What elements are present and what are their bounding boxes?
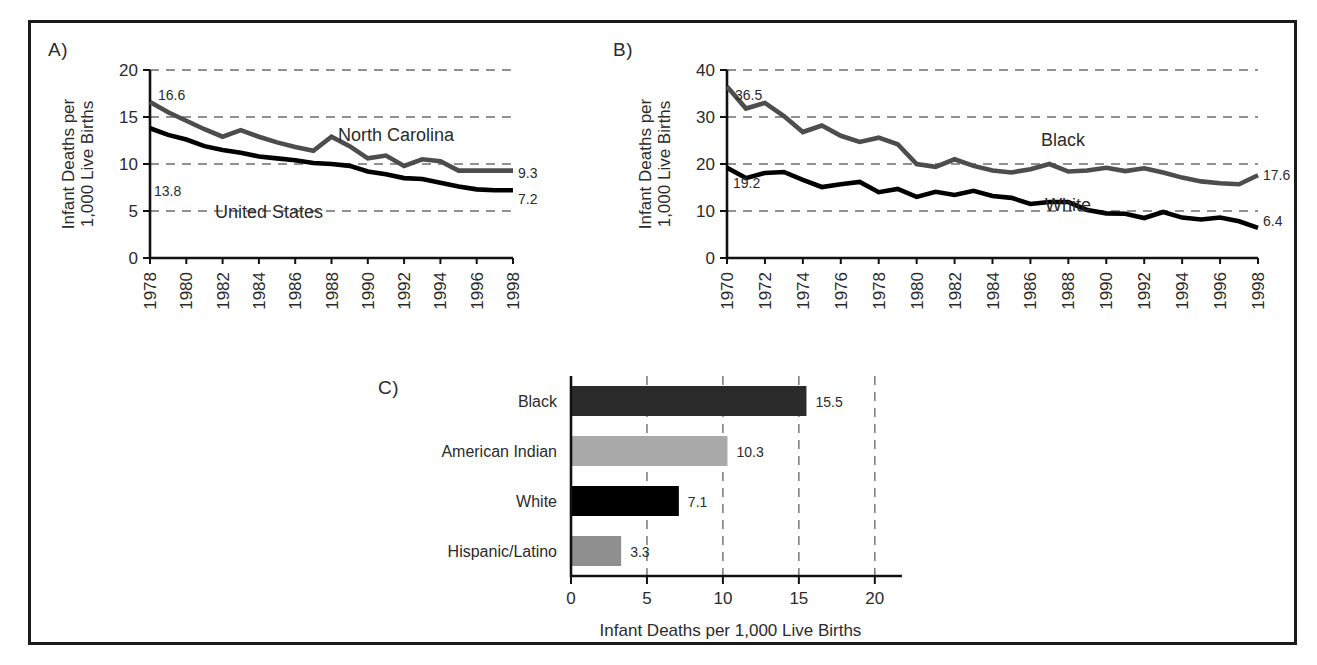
bar-category-label-0: Black (518, 393, 558, 410)
panel-b-chart: B)01020304019701972197419761978198019821… (605, 28, 1295, 328)
bar-value-label-0: 15.5 (815, 394, 842, 410)
xtick-label-1998: 1998 (504, 272, 523, 310)
y-axis-title-line-0: Infant Deaths per (59, 98, 78, 229)
xtick-label-1972: 1972 (756, 272, 775, 310)
xtick-label-1976: 1976 (832, 272, 851, 310)
xtick-label-1984: 1984 (250, 272, 269, 310)
xtick-label-1970: 1970 (718, 272, 737, 310)
end-value-label-1: 6.4 (1263, 213, 1283, 229)
y-axis-title-line-1: 1,000 Live Births (655, 101, 674, 228)
xtick-label-1992: 1992 (395, 272, 414, 310)
panel-c: C)15.5Black10.3American Indian7.1White3.… (370, 358, 930, 643)
start-value-label-0: 16.6 (158, 87, 185, 103)
xtick-label-1984: 1984 (984, 272, 1003, 310)
xtick-label-1978: 1978 (870, 272, 889, 310)
y-axis-title-line-1: 1,000 Live Births (78, 101, 97, 228)
panel-c-chart: C)15.5Black10.3American Indian7.1White3.… (370, 358, 930, 643)
xtick-label-1992: 1992 (1135, 272, 1154, 310)
bar-white[interactable] (571, 486, 679, 516)
series-name-1: United States (215, 202, 323, 222)
end-value-label-0: 9.3 (518, 165, 538, 181)
ytick-label-20: 20 (119, 61, 138, 80)
xtick-label-1990: 1990 (1097, 272, 1116, 310)
xtick-label-1982: 1982 (946, 272, 965, 310)
bar-black[interactable] (571, 386, 806, 416)
bar-value-label-3: 3.3 (630, 544, 650, 560)
panel-a-chart: A)05101520197819801982198419861988199019… (40, 28, 560, 328)
xtick-label-1986: 1986 (286, 272, 305, 310)
xtick-label-20: 20 (865, 589, 884, 608)
ytick-label-20: 20 (696, 155, 715, 174)
xtick-label-1978: 1978 (141, 272, 160, 310)
ytick-label-5: 5 (129, 202, 138, 221)
start-value-label-1: 19.2 (733, 175, 760, 191)
series-line-black (727, 86, 1258, 184)
xtick-label-1996: 1996 (468, 272, 487, 310)
xtick-label-0: 0 (566, 589, 575, 608)
bar-category-label-3: Hispanic/Latino (448, 543, 558, 560)
bar-value-label-1: 10.3 (736, 444, 763, 460)
bar-category-label-1: American Indian (441, 443, 557, 460)
series-name-0: Black (1041, 130, 1086, 150)
ytick-label-0: 0 (129, 249, 138, 268)
figure-root: A)05101520197819801982198419861988199019… (0, 0, 1317, 665)
xtick-label-1996: 1996 (1211, 272, 1230, 310)
xtick-label-1980: 1980 (177, 272, 196, 310)
xtick-label-1990: 1990 (359, 272, 378, 310)
xtick-label-1988: 1988 (323, 272, 342, 310)
bar-category-label-2: White (516, 493, 557, 510)
panel-a: A)05101520197819801982198419861988199019… (40, 28, 560, 328)
panel-b: B)01020304019701972197419761978198019821… (605, 28, 1295, 328)
bar-hispanic-latino[interactable] (571, 536, 621, 566)
end-value-label-0: 17.6 (1263, 167, 1290, 183)
xtick-label-5: 5 (642, 589, 651, 608)
bar-american-indian[interactable] (571, 436, 727, 466)
xtick-label-1988: 1988 (1059, 272, 1078, 310)
xtick-label-1986: 1986 (1021, 272, 1040, 310)
start-value-label-1: 13.8 (154, 183, 181, 199)
panel-letter: B) (613, 39, 633, 60)
ytick-label-10: 10 (119, 155, 138, 174)
end-value-label-1: 7.2 (518, 191, 538, 207)
series-name-0: North Carolina (338, 125, 455, 145)
xtick-label-15: 15 (789, 589, 808, 608)
ytick-label-15: 15 (119, 108, 138, 127)
xtick-label-1994: 1994 (1173, 272, 1192, 310)
xtick-label-10: 10 (713, 589, 732, 608)
panel-letter: C) (378, 377, 399, 398)
series-line-north-carolina (150, 102, 513, 171)
x-axis-title: Infant Deaths per 1,000 Live Births (600, 621, 862, 640)
ytick-label-30: 30 (696, 108, 715, 127)
bar-value-label-2: 7.1 (688, 494, 708, 510)
ytick-label-40: 40 (696, 61, 715, 80)
xtick-label-1998: 1998 (1249, 272, 1268, 310)
panel-letter: A) (48, 39, 68, 60)
ytick-label-10: 10 (696, 202, 715, 221)
series-name-1: White (1045, 195, 1091, 215)
ytick-label-0: 0 (706, 249, 715, 268)
xtick-label-1980: 1980 (908, 272, 927, 310)
xtick-label-1974: 1974 (794, 272, 813, 310)
xtick-label-1982: 1982 (214, 272, 233, 310)
xtick-label-1994: 1994 (431, 272, 450, 310)
y-axis-title-line-0: Infant Deaths per (636, 98, 655, 229)
start-value-label-0: 36.5 (735, 87, 762, 103)
